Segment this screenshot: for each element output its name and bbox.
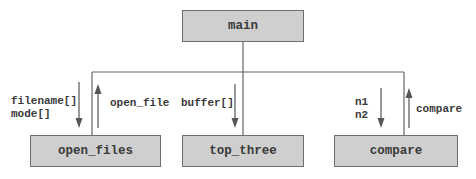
param-label-compare-down: n1 n2 <box>355 96 368 122</box>
return-label-compare-up: compare <box>416 103 462 116</box>
node-label: compare <box>370 144 423 158</box>
return-label-open-files-up: open_file <box>110 97 169 110</box>
arrow-up-icon <box>95 84 102 128</box>
param-label-top-three-down: buffer[] <box>181 97 234 110</box>
node-main: main <box>182 10 304 42</box>
param-label-open-files-down: filename[] mode[] <box>11 95 77 121</box>
arrow-down-icon <box>378 88 385 128</box>
node-label: top_three <box>209 144 277 158</box>
node-compare: compare <box>334 135 458 167</box>
node-top-three: top_three <box>182 135 304 167</box>
arrow-up-icon <box>406 88 413 128</box>
structure-chart: main open_files top_three compare filena… <box>0 0 476 179</box>
node-open-files: open_files <box>30 135 161 167</box>
node-label: open_files <box>58 144 133 158</box>
node-label: main <box>228 19 258 33</box>
